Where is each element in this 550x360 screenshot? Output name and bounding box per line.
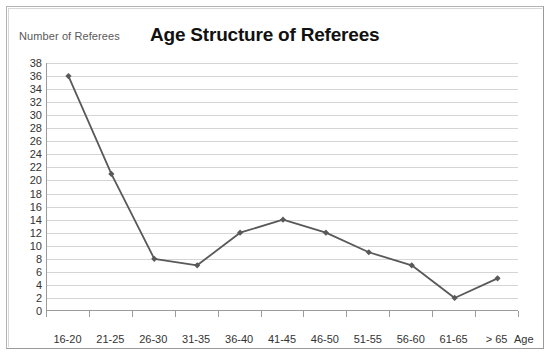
x-tick-mark <box>46 311 47 317</box>
y-tick-label: 30 <box>30 110 42 121</box>
x-tick-label: 31-35 <box>182 334 210 345</box>
x-tick-mark <box>389 311 390 317</box>
x-tick-label: 46-50 <box>311 334 339 345</box>
x-tick-label: 41-45 <box>268 334 296 345</box>
y-tick-label: 14 <box>30 215 42 226</box>
data-point-marker <box>366 249 372 255</box>
y-tick-label: 22 <box>30 162 42 173</box>
series-polyline <box>68 76 497 298</box>
x-tick-mark <box>218 311 219 317</box>
y-tick-label: 38 <box>30 58 42 69</box>
y-axis-title: Number of Referees <box>19 30 120 42</box>
y-tick-label: 12 <box>30 228 42 239</box>
x-tick-label: 56-60 <box>397 334 425 345</box>
y-tick-label: 36 <box>30 71 42 82</box>
y-tick-label: 18 <box>30 189 42 200</box>
data-point-marker <box>65 73 71 79</box>
y-tick-label: 0 <box>36 306 42 317</box>
x-tick-mark <box>132 311 133 317</box>
x-tick-mark <box>89 311 90 317</box>
x-tick-label: 36-40 <box>225 334 253 345</box>
y-tick-label: 24 <box>30 149 42 160</box>
data-point-marker <box>151 256 157 262</box>
x-tick-mark <box>303 311 304 317</box>
x-tick-label: 21-25 <box>96 334 124 345</box>
x-tick-mark <box>346 311 347 317</box>
x-tick-mark <box>175 311 176 317</box>
y-tick-label: 8 <box>36 254 42 265</box>
x-tick-label: 51-55 <box>354 334 382 345</box>
x-tick-label: 26-30 <box>139 334 167 345</box>
data-point-marker <box>494 275 500 281</box>
data-point-marker <box>108 171 114 177</box>
y-tick-label: 28 <box>30 123 42 134</box>
data-point-marker <box>280 217 286 223</box>
y-tick-label: 32 <box>30 97 42 108</box>
chart-figure: Number of Referees Age Structure of Refe… <box>0 0 550 360</box>
y-tick-label: 16 <box>30 202 42 213</box>
y-tick-label: 26 <box>30 136 42 147</box>
chart-title: Age Structure of Referees <box>150 24 379 46</box>
x-tick-label: > 65 <box>486 334 508 345</box>
x-tick-label: 61-65 <box>440 334 468 345</box>
x-tick-mark <box>518 311 519 317</box>
x-tick-mark <box>261 311 262 317</box>
data-point-marker <box>323 230 329 236</box>
data-series-line <box>47 63 519 311</box>
y-tick-label: 20 <box>30 175 42 186</box>
y-tick-label: 6 <box>36 267 42 278</box>
x-axis-title: Age <box>514 334 534 345</box>
x-tick-label: 16-20 <box>53 334 81 345</box>
y-tick-label: 10 <box>30 241 42 252</box>
plot-area <box>46 63 518 311</box>
x-tick-mark <box>475 311 476 317</box>
x-tick-mark <box>432 311 433 317</box>
y-tick-label: 2 <box>36 293 42 304</box>
y-tick-label: 34 <box>30 84 42 95</box>
y-axis-tick-labels: 38363432302826242220181614121086420 <box>14 63 42 311</box>
y-tick-label: 4 <box>36 280 42 291</box>
